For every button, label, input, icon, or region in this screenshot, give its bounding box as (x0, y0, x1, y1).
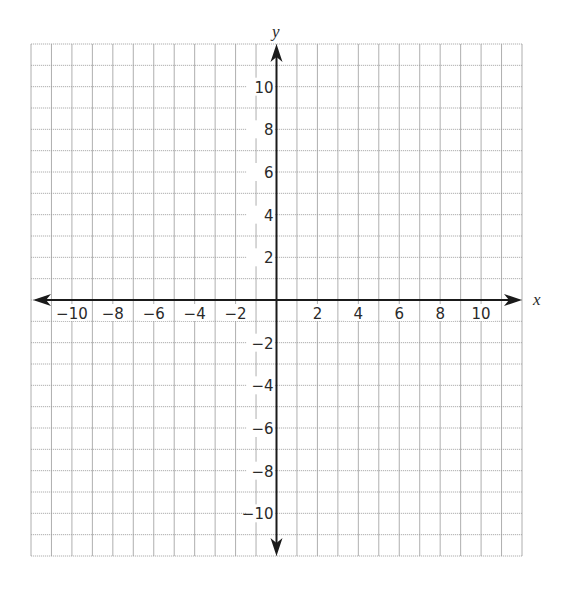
x-tick-label: −4 (184, 305, 206, 323)
y-tick-label: −10 (242, 505, 274, 523)
y-tick-label: −4 (251, 377, 273, 395)
y-tick-label: 2 (264, 249, 274, 267)
y-tick-label: −6 (251, 420, 273, 438)
x-tick-label: 8 (435, 305, 445, 323)
y-tick-label: 6 (264, 164, 274, 182)
x-tick-label: 4 (354, 305, 364, 323)
y-tick-label: 10 (254, 79, 273, 97)
x-tick-label: −2 (225, 305, 247, 323)
x-tick-label: 10 (472, 305, 491, 323)
y-tick-label: −2 (251, 335, 273, 353)
x-tick-label: −8 (102, 305, 124, 323)
y-axis-label: y (270, 22, 280, 41)
y-tick-label: 4 (264, 207, 274, 225)
x-tick-label: −10 (56, 305, 88, 323)
x-tick-label: 2 (313, 305, 323, 323)
x-tick-label: −6 (143, 305, 165, 323)
x-tick-label: 6 (394, 305, 404, 323)
y-tick-label: 8 (264, 121, 274, 139)
coordinate-plane: −10−8−6−4−2246810 108642−2−4−6−8−10 x y (0, 0, 562, 589)
y-tick-label: −8 (251, 463, 273, 481)
x-axis-label: x (532, 290, 541, 309)
axes (33, 44, 522, 556)
